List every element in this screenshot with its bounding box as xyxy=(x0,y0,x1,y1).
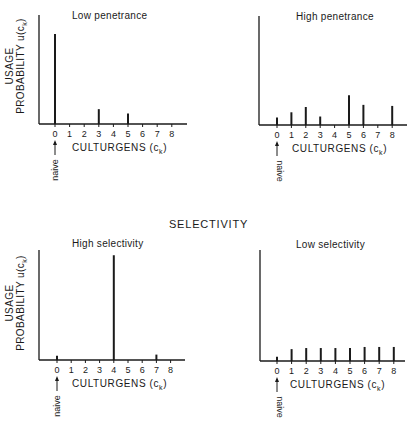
panel-high-selectivity: High selectivity USAGE PROBABILITY u(ck)… xyxy=(0,215,210,431)
bar-plot: 012345678naive xyxy=(210,215,417,431)
x-tick-label: 5 xyxy=(125,365,130,375)
x-tick-label: 6 xyxy=(140,365,145,375)
x-tick-label: 0 xyxy=(54,365,59,375)
panel-low-selectivity: Low selectivity 012345678naive CULTURGEN… xyxy=(210,215,417,431)
x-tick-label: 2 xyxy=(304,366,309,376)
x-tick-label: 2 xyxy=(82,129,87,139)
arrowhead-icon xyxy=(275,141,279,146)
x-tick-label: 0 xyxy=(274,130,279,140)
x-tick-label: 2 xyxy=(83,365,88,375)
x-tick-label: 7 xyxy=(154,365,159,375)
x-tick-label: 3 xyxy=(97,365,102,375)
x-tick-label: 8 xyxy=(168,365,173,375)
arrowhead-icon xyxy=(53,140,57,145)
x-tick-label: 8 xyxy=(169,129,174,139)
naive-label: naive xyxy=(275,160,285,182)
bar-plot: 012345678naive xyxy=(0,215,210,431)
naive-label: naive xyxy=(275,396,285,418)
panel-low-penetrance: Low penetrance USAGE PROBABILITY u(ck) 0… xyxy=(0,0,210,200)
x-tick-label: 1 xyxy=(69,365,74,375)
panel-high-penetrance: High penetrance 012345678naive CULTURGEN… xyxy=(210,0,417,200)
naive-label: naive xyxy=(52,395,62,417)
bar-plot: 012345678naive xyxy=(210,0,417,200)
x-tick-label: 1 xyxy=(289,366,294,376)
bar-plot: 012345678naive xyxy=(0,0,210,200)
x-tick-label: 0 xyxy=(52,129,57,139)
arrowhead-icon xyxy=(275,377,279,382)
x-tick-label: 1 xyxy=(67,129,72,139)
x-tick-label: 4 xyxy=(111,365,116,375)
x-tick-label: 5 xyxy=(346,130,351,140)
x-tick-label: 3 xyxy=(318,130,323,140)
x-tick-label: 6 xyxy=(362,366,367,376)
x-tick-label: 8 xyxy=(390,130,395,140)
x-tick-label: 4 xyxy=(333,366,338,376)
x-tick-label: 7 xyxy=(155,129,160,139)
x-tick-label: 6 xyxy=(361,130,366,140)
x-tick-label: 8 xyxy=(391,366,396,376)
x-tick-label: 5 xyxy=(347,366,352,376)
x-tick-label: 4 xyxy=(111,129,116,139)
x-tick-label: 3 xyxy=(318,366,323,376)
x-tick-label: 1 xyxy=(289,130,294,140)
arrowhead-icon xyxy=(55,376,59,381)
x-tick-label: 4 xyxy=(332,130,337,140)
x-tick-label: 6 xyxy=(140,129,145,139)
x-tick-label: 0 xyxy=(274,366,279,376)
x-tick-label: 2 xyxy=(303,130,308,140)
x-axis-label: CULTURGENS (ck) xyxy=(72,378,167,391)
x-axis-label: CULTURGENS (ck) xyxy=(292,143,387,156)
x-tick-label: 7 xyxy=(377,366,382,376)
naive-label: naive xyxy=(50,159,60,181)
x-tick-label: 7 xyxy=(375,130,380,140)
x-tick-label: 5 xyxy=(125,129,130,139)
x-axis-label: CULTURGENS (ck) xyxy=(290,379,385,392)
x-tick-label: 3 xyxy=(96,129,101,139)
x-axis-label: CULTURGENS (ck) xyxy=(72,142,167,155)
